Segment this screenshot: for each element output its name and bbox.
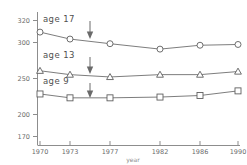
y-tick-label-320: 320 bbox=[18, 17, 30, 25]
series-label-age-9: age 9 bbox=[43, 76, 69, 86]
x-tick-label-1977: 1977 bbox=[102, 148, 119, 156]
data-point bbox=[157, 46, 163, 52]
y-tick-label-300: 300 bbox=[18, 39, 30, 47]
x-tick-label-1990: 1990 bbox=[230, 148, 247, 156]
series-age-9 bbox=[37, 88, 241, 101]
series-age-17 bbox=[37, 29, 241, 52]
x-tick-label-1970: 1970 bbox=[32, 148, 49, 156]
data-point bbox=[235, 68, 242, 74]
x-tick-label-1986: 1986 bbox=[192, 148, 209, 156]
data-point bbox=[197, 42, 203, 48]
data-point bbox=[67, 36, 73, 42]
x-tick-label-1973: 1973 bbox=[62, 148, 79, 156]
data-point bbox=[157, 94, 163, 100]
y-tick-label-200: 200 bbox=[18, 111, 30, 119]
data-point bbox=[37, 91, 43, 97]
y-tick-label-170: 170 bbox=[18, 133, 30, 141]
annotation-arrow-age-17 bbox=[87, 21, 93, 39]
data-point bbox=[37, 29, 43, 35]
series-label-age-17: age 17 bbox=[43, 14, 75, 24]
data-point bbox=[67, 95, 73, 101]
annotation-arrow-age-13 bbox=[87, 57, 93, 74]
data-point bbox=[197, 93, 203, 99]
annotation-arrow-age-9 bbox=[87, 83, 93, 98]
x-axis-title: year bbox=[126, 156, 140, 164]
line-chart: 320 300 250 200 170 1970 1973 1977 1982 … bbox=[0, 0, 247, 165]
series-label-age-13: age 13 bbox=[43, 50, 75, 60]
data-point bbox=[107, 95, 113, 101]
y-tick-label-250: 250 bbox=[18, 75, 30, 83]
data-point bbox=[107, 41, 113, 47]
data-point bbox=[235, 88, 241, 94]
x-tick-label-1982: 1982 bbox=[152, 148, 169, 156]
chart-canvas: 320 300 250 200 170 1970 1973 1977 1982 … bbox=[0, 0, 247, 165]
data-point bbox=[235, 41, 241, 47]
